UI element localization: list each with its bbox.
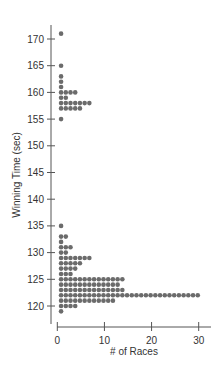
data-dot: [59, 74, 64, 79]
data-dot: [87, 282, 92, 287]
data-dot: [68, 106, 73, 111]
data-dot: [68, 282, 73, 287]
y-tick-label: 140: [27, 194, 44, 205]
data-dot: [63, 298, 68, 303]
data-dot: [82, 101, 87, 106]
data-dot: [87, 293, 92, 298]
data-dot: [195, 293, 200, 298]
data-dot: [59, 304, 64, 309]
data-dot: [78, 261, 83, 266]
data-dot: [87, 298, 92, 303]
data-dot: [82, 293, 87, 298]
data-dot: [106, 288, 111, 293]
dot-series: [59, 31, 200, 313]
data-dot: [134, 293, 139, 298]
data-dot: [78, 256, 83, 261]
data-dot: [63, 106, 68, 111]
data-dot: [111, 293, 116, 298]
data-dot: [106, 277, 111, 282]
y-tick-label: 150: [27, 140, 44, 151]
data-dot: [78, 282, 83, 287]
data-dot: [59, 293, 64, 298]
data-dot: [120, 277, 125, 282]
data-dot: [63, 90, 68, 95]
data-dot: [158, 293, 163, 298]
data-dot: [96, 298, 101, 303]
data-dot: [59, 79, 64, 84]
data-dot: [59, 272, 64, 277]
data-dot: [73, 293, 78, 298]
data-dot: [73, 304, 78, 309]
data-dot: [101, 293, 106, 298]
data-dot: [59, 261, 64, 266]
data-dot: [63, 277, 68, 282]
y-tick-label: 125: [27, 274, 44, 285]
data-dot: [73, 266, 78, 271]
y-tick-label: 160: [27, 87, 44, 98]
data-dot: [92, 282, 97, 287]
data-dot: [68, 277, 73, 282]
data-dot: [59, 63, 64, 68]
data-dot: [63, 234, 68, 239]
data-dot: [63, 272, 68, 277]
data-dot: [73, 277, 78, 282]
data-dot: [101, 298, 106, 303]
data-dot: [59, 309, 64, 314]
data-dot: [59, 224, 64, 229]
data-dot: [111, 298, 116, 303]
data-dot: [63, 282, 68, 287]
y-tick-label: 135: [27, 220, 44, 231]
data-dot: [59, 256, 64, 261]
data-dot: [63, 261, 68, 266]
data-dot: [78, 288, 83, 293]
data-dot: [63, 293, 68, 298]
data-dot: [59, 31, 64, 36]
data-dot: [92, 288, 97, 293]
data-dot: [153, 293, 158, 298]
x-tick-label: 20: [146, 335, 158, 346]
data-dot: [78, 101, 83, 106]
data-dot: [172, 293, 177, 298]
data-dot: [191, 293, 196, 298]
data-dot: [96, 293, 101, 298]
data-dot: [68, 101, 73, 106]
dot-plot-chart: 120125130135140145150155160165170 010203…: [0, 0, 224, 379]
data-dot: [96, 282, 101, 287]
data-dot: [59, 282, 64, 287]
data-dot: [59, 117, 64, 122]
data-dot: [115, 288, 120, 293]
data-dot: [68, 288, 73, 293]
data-dot: [73, 90, 78, 95]
data-dot: [63, 250, 68, 255]
data-dot: [87, 101, 92, 106]
x-tick-label: 10: [99, 335, 111, 346]
data-dot: [68, 266, 73, 271]
data-dot: [63, 256, 68, 261]
data-dot: [111, 282, 116, 287]
data-dot: [181, 293, 186, 298]
data-dot: [59, 106, 64, 111]
y-axis-title: Winning Time (sec): [11, 132, 22, 218]
data-dot: [78, 293, 83, 298]
data-dot: [115, 293, 120, 298]
data-dot: [111, 288, 116, 293]
data-dot: [148, 293, 153, 298]
data-dot: [59, 250, 64, 255]
data-dot: [73, 298, 78, 303]
data-dot: [59, 101, 64, 106]
data-dot: [68, 304, 73, 309]
data-dot: [106, 298, 111, 303]
data-dot: [129, 293, 134, 298]
data-dot: [92, 298, 97, 303]
data-dot: [59, 266, 64, 271]
data-dot: [87, 256, 92, 261]
data-dot: [73, 256, 78, 261]
data-dot: [82, 298, 87, 303]
data-dot: [92, 293, 97, 298]
data-dot: [92, 277, 97, 282]
data-dot: [96, 288, 101, 293]
data-dot: [101, 277, 106, 282]
data-dot: [78, 298, 83, 303]
data-dot: [59, 288, 64, 293]
data-dot: [115, 277, 120, 282]
